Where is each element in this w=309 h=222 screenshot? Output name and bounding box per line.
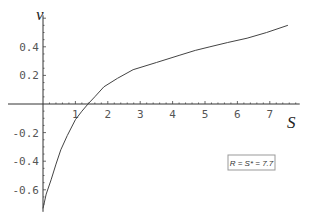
tick-labels: 1234567-0.6-0.4-0.20.20.4 xyxy=(13,41,274,197)
x-tick-label: 2 xyxy=(104,108,111,121)
x-axis-label: S xyxy=(287,113,296,132)
y-tick-label: 0.4 xyxy=(19,41,39,54)
annotation-text: R = S* = 7.7 xyxy=(230,159,274,168)
y-tick-label: -0.2 xyxy=(13,127,40,140)
x-tick-label: 7 xyxy=(266,108,273,121)
series-line xyxy=(43,25,288,208)
x-tick-label: 3 xyxy=(137,108,144,121)
x-tick-label: 5 xyxy=(202,108,209,121)
y-tick-label: -0.6 xyxy=(13,184,40,197)
y-tick-label: -0.4 xyxy=(13,155,40,168)
y-axis-label: v xyxy=(36,5,44,24)
annotation-box: R = S* = 7.7 xyxy=(228,155,275,170)
y-tick-label: 0.2 xyxy=(19,69,39,82)
x-tick-label: 4 xyxy=(169,108,176,121)
chart: 1234567-0.6-0.4-0.20.20.4 v S R = S* = 7… xyxy=(0,0,309,222)
x-tick-label: 6 xyxy=(234,108,241,121)
axes xyxy=(8,15,300,211)
